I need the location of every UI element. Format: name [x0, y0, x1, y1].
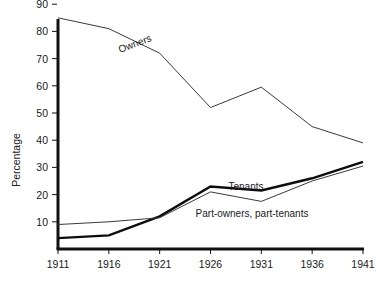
x-tick-label: 1921	[148, 258, 172, 270]
series-line-owners	[58, 18, 363, 143]
y-axis-ticks: 102030405060708090	[36, 0, 57, 228]
y-axis-title: Percentage	[10, 133, 22, 187]
y-tick-label: 80	[36, 25, 48, 37]
x-tick-label: 1941	[351, 258, 375, 270]
y-tick-label: 30	[36, 161, 48, 173]
y-tick-label: 50	[36, 107, 48, 119]
x-tick-label: 1911	[47, 258, 70, 270]
x-tick-label: 1916	[97, 258, 121, 270]
line-chart-plot: Percentage 102030405060708090 1911191619…	[0, 0, 387, 286]
y-tick-label: 40	[36, 134, 48, 146]
x-axis-ticks: 1911191619211926193119361941	[47, 248, 375, 270]
y-tick-label: 70	[36, 53, 48, 65]
chart-container: Percentage 102030405060708090 1911191619…	[0, 0, 387, 286]
y-tick-label: 10	[36, 216, 48, 228]
series-line-tenants	[58, 162, 363, 238]
series-lines-group	[58, 18, 363, 238]
y-tick-label: 20	[36, 189, 48, 201]
series-label-tenants: Tenants	[228, 181, 263, 192]
x-tick-label: 1931	[250, 258, 274, 270]
series-label-part-owners-part-tenants: Part-owners, part-tenants	[196, 208, 309, 219]
series-labels-group: OwnersTenantsPart-owners, part-tenants	[117, 32, 309, 219]
x-tick-label: 1926	[199, 258, 223, 270]
y-tick-label: 90	[36, 0, 48, 10]
x-tick-label: 1936	[300, 258, 324, 270]
y-tick-label: 60	[36, 80, 48, 92]
